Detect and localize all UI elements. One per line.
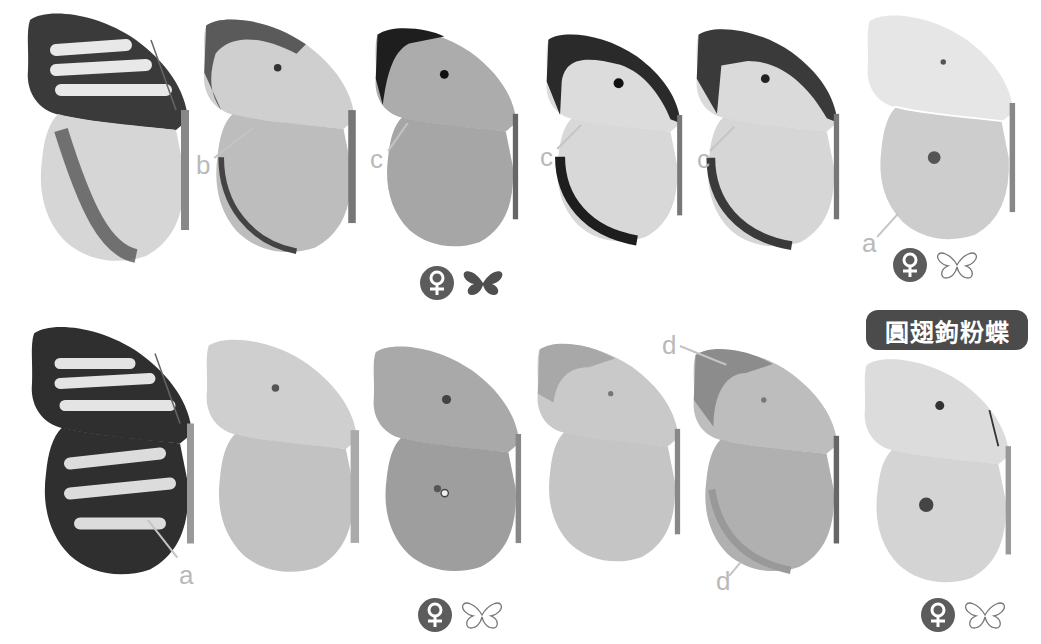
sex-view-symbol-group-1 <box>420 266 504 300</box>
specimen-r2-5 <box>692 338 840 583</box>
specimen-r1-1 <box>26 10 191 265</box>
label-a-2: a <box>179 562 193 588</box>
sex-view-symbol-group-4 <box>921 598 1007 632</box>
label-d-1: d <box>662 332 676 358</box>
specimen-r1-2 <box>200 16 360 256</box>
female-icon <box>893 248 927 282</box>
label-c-2: c <box>540 144 553 170</box>
female-icon <box>420 266 454 300</box>
species-title-badge: 圓翅鉤粉蝶 <box>866 310 1028 350</box>
specimen-r2-2 <box>205 336 360 576</box>
label-d-2: d <box>716 568 730 594</box>
specimen-r2-1 <box>30 320 195 582</box>
filled-butterfly-icon <box>462 269 504 297</box>
label-c-1: c <box>370 146 383 172</box>
outline-butterfly-icon <box>935 250 979 280</box>
sex-view-symbol-group-3 <box>418 598 504 632</box>
specimen-r2-6 <box>860 356 1015 586</box>
specimen-r1-5 <box>695 18 840 258</box>
specimen-r2-3 <box>372 334 522 584</box>
label-b: b <box>196 152 210 178</box>
specimen-r1-6 <box>866 8 1016 248</box>
label-c-3: c <box>697 146 710 172</box>
outline-butterfly-icon <box>963 600 1007 630</box>
specimen-r2-4 <box>536 328 681 578</box>
female-icon <box>921 598 955 632</box>
female-icon <box>418 598 452 632</box>
outline-butterfly-icon <box>460 600 504 630</box>
label-a-1: a <box>862 230 876 256</box>
sex-view-symbol-group-2 <box>893 248 979 282</box>
